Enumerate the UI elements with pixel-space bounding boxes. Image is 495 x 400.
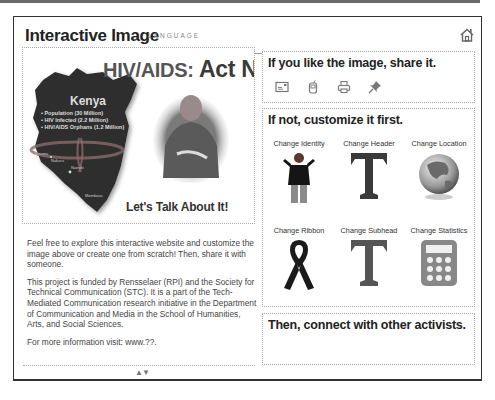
connect-title: Then, connect with other activists. <box>268 318 466 332</box>
divider <box>23 365 255 366</box>
option-label: Change Header <box>335 139 403 148</box>
stat-orphans: • HIV/AIDS Orphans (1.2 Million) <box>41 124 124 131</box>
change-identity-option[interactable]: Change Identity <box>265 139 333 203</box>
change-location-option[interactable]: Change Location <box>405 139 473 201</box>
change-header-option[interactable]: Change Header <box>335 139 403 201</box>
funding-paragraph: This project is funded by Rensselaer (RP… <box>27 277 259 330</box>
share-panel: If you like the image, share it. <box>262 51 475 103</box>
top-rule <box>0 0 480 3</box>
language-link[interactable]: LANGUAGE <box>148 32 200 39</box>
scroll-arrows-icon[interactable]: ▲▼ <box>135 368 149 377</box>
customize-panel: If not, customize it first. Change Ident… <box>262 108 475 307</box>
city-label: Mombasa <box>85 193 103 198</box>
option-label: Change Statistics <box>405 226 473 235</box>
stat-population: • Population (30 Million) <box>41 110 124 117</box>
option-label: Change Location <box>405 139 473 148</box>
kenya-stats: • Population (30 Million) • HIV Infected… <box>41 110 124 131</box>
kenya-label: Kenya <box>70 94 106 108</box>
headline-main: Act Now <box>199 56 255 82</box>
option-label: Change Subhead <box>335 226 403 235</box>
email-icon[interactable] <box>275 80 289 94</box>
city-label: Nairobi <box>71 165 84 170</box>
app-frame: Interactive Image LANGUAGE Kenya • Popul… <box>13 16 482 381</box>
poster-tagline: Let's Talk About It! <box>126 200 228 214</box>
change-ribbon-option[interactable]: Change Ribbon <box>265 226 333 292</box>
poster-headline: HIV/AIDS: Act Now <box>103 56 255 83</box>
poster-image[interactable]: Kenya • Population (30 Million) • HIV In… <box>22 47 255 224</box>
option-label: Change Identity <box>265 139 333 148</box>
home-icon[interactable] <box>459 27 475 43</box>
person-icon <box>282 151 316 203</box>
globe-icon <box>415 151 463 201</box>
mobile-phone-icon[interactable] <box>306 80 320 94</box>
stat-infected: • HIV Infected (2.2 Million) <box>41 117 124 124</box>
headline-prefix: HIV/AIDS: <box>103 59 194 81</box>
awareness-ribbon-icon <box>282 238 316 292</box>
person-photo <box>151 88 231 183</box>
calculator-icon <box>419 238 459 288</box>
change-subhead-option[interactable]: Change Subhead <box>335 226 403 288</box>
app-title: Interactive Image <box>25 26 159 46</box>
printer-icon[interactable] <box>337 80 351 94</box>
city-label: Nakuru <box>51 158 64 163</box>
city-label: Kisumu <box>35 151 48 156</box>
letter-t-icon <box>349 151 389 201</box>
pushpin-icon[interactable] <box>368 80 382 94</box>
more-info-paragraph: For more information visit: www.??. <box>27 337 259 348</box>
letter-t-icon <box>349 238 389 288</box>
project-description: Feel free to explore this interactive we… <box>27 238 259 354</box>
customize-title: If not, customize it first. <box>268 113 403 127</box>
connect-panel: Then, connect with other activists. <box>262 313 475 365</box>
change-statistics-option[interactable]: Change Statistics <box>405 226 473 288</box>
share-title: If you like the image, share it. <box>268 56 436 70</box>
intro-paragraph: Feel free to explore this interactive we… <box>27 238 259 270</box>
option-label: Change Ribbon <box>265 226 333 235</box>
